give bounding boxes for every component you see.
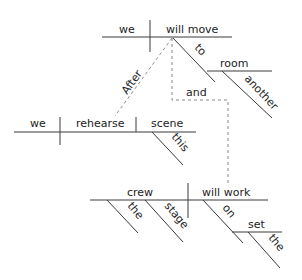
second-subject-word: crew [127, 186, 153, 199]
main-verb-word: will move [166, 23, 219, 36]
main-subject-word: we [119, 23, 135, 36]
second-clause: crew will work the stage on set the [90, 183, 287, 268]
sub-verb-word: rehearse [76, 117, 125, 130]
prep-to-diagonal [173, 38, 215, 82]
main-clause: we will move to room another [102, 20, 281, 118]
after-word: After [119, 67, 145, 96]
subordinate-clause: we rehearse scene this [14, 117, 196, 165]
sub-subject-word: we [30, 117, 46, 130]
modifier-the-1-word: the [125, 200, 147, 222]
modifier-stage-word: stage [162, 200, 192, 232]
and-word: and [186, 86, 207, 99]
prep-to-word: to [192, 41, 209, 58]
sentence-diagram: we will move to room another After we re… [0, 0, 302, 280]
second-verb-word: will work [202, 186, 251, 199]
subordinate-connector: After [115, 38, 172, 116]
sub-object-word: scene [151, 117, 184, 130]
modifier-the-2-word: the [266, 232, 288, 254]
prep-on-word: on [220, 202, 239, 221]
modifier-this-word: this [169, 131, 192, 155]
modifier-another-word: another [242, 72, 281, 113]
prep-object-set-word: set [248, 218, 265, 231]
prep-object-room-word: room [220, 57, 248, 70]
